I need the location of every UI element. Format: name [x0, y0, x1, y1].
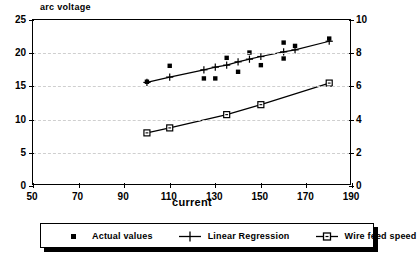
x-axis-title: current	[0, 196, 384, 208]
y-axis-tick-label: 20	[2, 47, 26, 58]
gridline	[33, 120, 350, 121]
x-axis-tick	[306, 183, 307, 188]
y2-axis-tick-label: 4	[356, 113, 380, 124]
y-axis-tick-label: 15	[2, 80, 26, 91]
plot-area	[32, 19, 351, 185]
y-axis-tick	[29, 20, 34, 21]
plus-line-marker-icon	[179, 230, 201, 242]
series-wire-feed-speed	[144, 80, 332, 136]
y-axis-tick-label: 10	[2, 113, 26, 124]
legend-label: Actual values	[92, 231, 153, 241]
series-linear-regression	[143, 38, 332, 86]
legend-item-wire-feed-speed: Wire feed speed	[316, 230, 417, 242]
data-point-marker	[259, 63, 263, 67]
legend-item-actual-values: Actual values	[63, 230, 153, 242]
y2-axis-tick-label: 10	[356, 14, 380, 25]
data-point-marker	[281, 56, 285, 60]
filled-square-marker-icon	[63, 230, 85, 242]
series-line	[147, 83, 329, 133]
y2-axis-tick-label: 0	[356, 180, 380, 191]
y-axis-tick	[29, 153, 34, 154]
x-axis-tick	[33, 183, 34, 188]
data-point-marker	[202, 76, 206, 80]
data-point-marker	[168, 64, 172, 68]
y2-axis-tick	[349, 86, 354, 87]
y-axis-tick-label: 5	[2, 146, 26, 157]
x-axis-tick	[261, 183, 262, 188]
data-series-layer	[33, 20, 352, 186]
data-point-marker	[281, 40, 285, 44]
y-axis-tick	[29, 120, 34, 121]
y-axis-tick	[29, 86, 34, 87]
legend-label: Wire feed speed	[345, 231, 417, 241]
y-axis-tick-label: 25	[2, 14, 26, 25]
x-axis-tick	[215, 183, 216, 188]
y2-axis-tick	[349, 20, 354, 21]
y2-axis-tick-label: 6	[356, 80, 380, 91]
data-point-marker	[213, 76, 217, 80]
y2-axis-tick	[349, 153, 354, 154]
x-axis-tick	[79, 183, 80, 188]
gridline	[33, 86, 350, 87]
gridline	[33, 153, 350, 154]
y2-axis-tick	[349, 53, 354, 54]
y-axis-tick	[29, 53, 34, 54]
legend-label: Linear Regression	[208, 231, 290, 241]
y2-axis-tick-label: 2	[356, 146, 380, 157]
y2-axis-tick-label: 8	[356, 47, 380, 58]
y-axis-tick-label: 0	[2, 180, 26, 191]
x-axis-tick	[124, 183, 125, 188]
open-square-line-marker-icon	[316, 230, 338, 242]
data-point-marker	[236, 70, 240, 74]
legend-item-linear-regression: Linear Regression	[179, 230, 290, 242]
data-point-marker	[224, 56, 228, 60]
gridline	[33, 53, 350, 54]
x-axis-tick	[170, 183, 171, 188]
chart-legend: Actual values Linear Regression Wire fee…	[40, 223, 374, 248]
y-axis-title: arc voltage	[40, 2, 91, 12]
x-axis-tick	[352, 183, 353, 188]
y2-axis-tick	[349, 120, 354, 121]
